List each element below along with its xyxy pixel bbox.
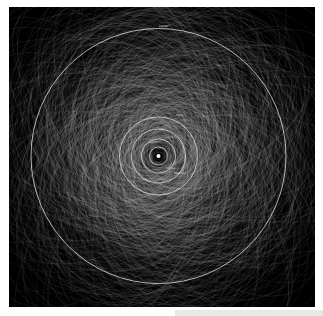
orbit-paths xyxy=(9,7,315,307)
planet-label: Mars xyxy=(176,114,183,117)
planet-label: Mercury xyxy=(174,172,186,175)
planet-label: Venus xyxy=(166,167,175,170)
outer-orbit-label: Jupiter xyxy=(159,25,169,28)
planet-label: Earth xyxy=(149,141,157,144)
bottom-bar xyxy=(175,310,323,316)
orbit-diagram: Jupiter Mars Earth Venus Mercury xyxy=(9,7,315,307)
